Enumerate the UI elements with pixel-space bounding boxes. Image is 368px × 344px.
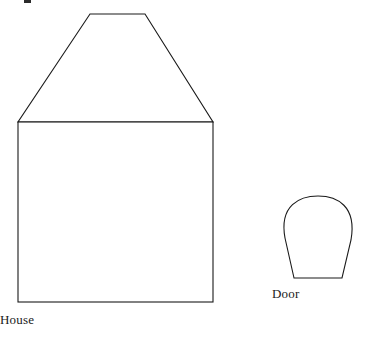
house-figure — [18, 14, 213, 302]
door-figure — [284, 196, 352, 278]
figure-canvas — [0, 0, 368, 344]
door-label: Door — [272, 287, 300, 300]
house-body-rectangle-shape — [18, 122, 213, 302]
roof-trapezoid-shape — [18, 14, 213, 122]
house-label: House — [0, 313, 34, 326]
door-arch-shape — [284, 196, 352, 278]
